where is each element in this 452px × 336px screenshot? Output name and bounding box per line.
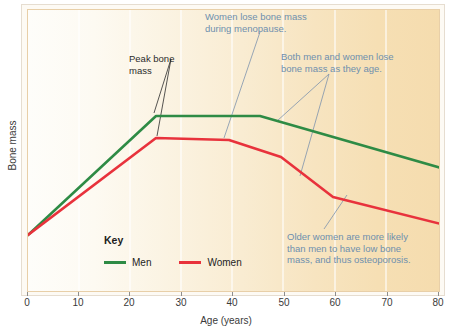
plot-area: Key Men Women Peak bone mass Women lose … [27,9,440,292]
xtick-label-40: 40 [226,297,237,308]
x-axis-label: Age (years) [0,315,452,326]
xtick-mark-50 [284,292,285,296]
xtick-mark-80 [438,292,439,296]
xtick-mark-30 [181,292,182,296]
legend-label-women: Women [207,257,241,268]
xtick-mark-0 [27,292,28,296]
xtick-mark-20 [129,292,130,296]
annotation-menopause: Women lose bone mass during menopause. [205,11,335,34]
legend-swatch-women [179,261,201,264]
annotation-peak-bone-mass: Peak bone mass [129,53,199,76]
annotation-osteoporosis: Older women are more likely than men to … [287,231,439,266]
bottom-margin-strip [0,330,452,336]
legend-item-women: Women [179,257,241,268]
legend-swatch-men [104,261,126,264]
legend-title: Key [104,234,242,246]
xtick-label-80: 80 [432,297,443,308]
xtick-label-10: 10 [72,297,83,308]
leader-line-menopause [224,32,260,138]
legend-key: Key Men Women [104,234,242,268]
xtick-mark-70 [387,292,388,296]
xtick-label-70: 70 [381,297,392,308]
xtick-label-30: 30 [175,297,186,308]
xtick-label-50: 50 [278,297,289,308]
xtick-label-60: 60 [329,297,340,308]
legend-label-men: Men [132,257,151,268]
xtick-mark-60 [335,292,336,296]
xtick-mark-40 [232,292,233,296]
xtick-mark-10 [78,292,79,296]
series-line-men [28,116,440,235]
legend-items: Men Women [104,257,242,268]
legend-item-men: Men [104,257,151,268]
annotation-both-lose: Both men and women lose bone mass as the… [281,51,421,74]
bone-mass-chart-figure: Key Men Women Peak bone mass Women lose … [0,0,452,336]
series-line-women [28,138,440,235]
xtick-label-0: 0 [24,297,30,308]
y-axis-label: Bone mass [7,86,18,206]
xtick-label-20: 20 [123,297,134,308]
